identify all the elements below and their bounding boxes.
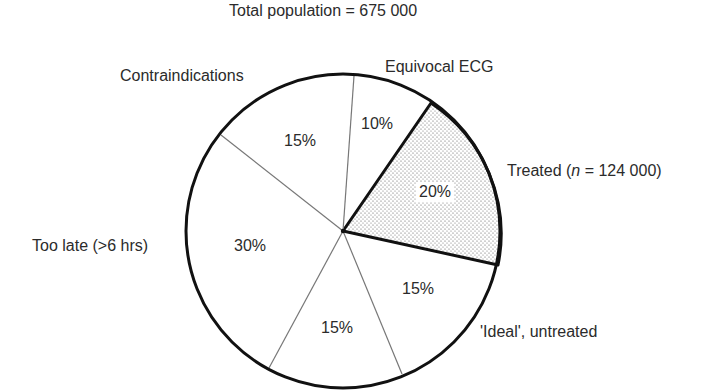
label-treated-suffix: = 124 000) <box>580 162 661 179</box>
label-treated: Treated (n = 124 000) <box>507 163 662 179</box>
label-contraindications: Contraindications <box>120 68 244 84</box>
pct-equivocal: 10% <box>361 116 393 132</box>
chart-title: Total population = 675 000 <box>229 3 417 19</box>
spoke-top <box>343 76 354 231</box>
pie-chart <box>0 0 718 392</box>
pie-center-dot <box>341 229 345 233</box>
label-treated-prefix: Treated ( <box>507 162 571 179</box>
pct-contraindications: 15% <box>284 133 316 149</box>
spoke-bottom-left <box>269 231 343 368</box>
spoke-bottom-right <box>343 231 402 374</box>
pct-treated: 20% <box>416 182 454 202</box>
pct-too-late: 30% <box>234 238 266 254</box>
pct-ideal: 15% <box>402 281 434 297</box>
spoke-left <box>221 135 343 231</box>
label-ideal-untreated: 'Ideal', untreated <box>480 324 597 340</box>
label-treated-n: n <box>571 162 580 179</box>
label-too-late: Too late (>6 hrs) <box>32 238 148 254</box>
pct-bottom: 15% <box>321 320 353 336</box>
label-equivocal-ecg: Equivocal ECG <box>385 59 494 75</box>
